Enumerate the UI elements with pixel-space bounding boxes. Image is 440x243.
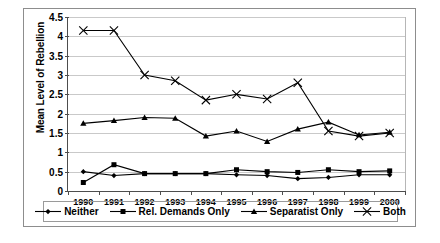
legend-item-rel-demands-only: Rel. Demands Only xyxy=(110,206,230,217)
data-point-marker xyxy=(111,162,116,167)
series-line xyxy=(83,31,389,137)
legend-item-label: Both xyxy=(383,206,406,217)
square-marker-icon xyxy=(110,206,136,217)
data-point-marker xyxy=(357,169,362,174)
legend-item-separatist-only: Separatist Only xyxy=(241,206,343,217)
x-axis-tick-mark xyxy=(313,191,314,195)
legend-item-label: Neither xyxy=(64,206,98,217)
data-point-marker xyxy=(81,180,86,185)
chart-figure: Mean Level of Rebellion 00.511.522.533.5… xyxy=(23,8,416,227)
data-point-marker xyxy=(387,168,392,173)
y-axis-tick-label: 3.5 xyxy=(49,50,63,61)
data-point-marker xyxy=(325,119,331,125)
x-axis-tick-mark xyxy=(252,191,253,195)
y-axis-tick-label: 0 xyxy=(57,186,63,197)
data-point-marker xyxy=(294,79,302,87)
legend-item-both: Both xyxy=(354,206,406,217)
y-axis-tick-label: 4 xyxy=(57,31,63,42)
data-point-marker xyxy=(265,169,270,174)
x-axis-tick-mark xyxy=(68,191,69,195)
data-point-marker xyxy=(81,169,86,174)
y-axis-tick-label: 2 xyxy=(57,108,63,119)
x-axis-tick-mark xyxy=(344,191,345,195)
x-axis-tick-mark xyxy=(374,191,375,195)
data-point-marker xyxy=(234,167,239,172)
legend-item-label: Rel. Demands Only xyxy=(139,206,230,217)
y-axis-tick-label: 1.5 xyxy=(49,128,63,139)
x-axis-tick-mark xyxy=(99,191,100,195)
y-axis-title: Mean Level of Rebellion xyxy=(35,8,46,148)
data-point-marker xyxy=(203,171,208,176)
data-point-marker xyxy=(142,171,147,176)
series-separatist-only xyxy=(80,114,393,144)
data-point-marker xyxy=(233,128,239,134)
triangle-marker-icon xyxy=(241,206,267,217)
x-axis-tick-mark xyxy=(405,191,406,195)
y-axis-tick-label: 2.5 xyxy=(49,89,63,100)
y-axis-tick-label: 3 xyxy=(57,70,63,81)
chart-legend: NeitherRel. Demands OnlySeparatist OnlyB… xyxy=(43,201,398,222)
series-both xyxy=(79,26,394,140)
x-axis-tick-mark xyxy=(221,191,222,195)
plot-area: 00.511.522.533.544.5 1990199119921993199… xyxy=(67,17,406,192)
x-axis-tick-mark xyxy=(129,191,130,195)
data-point-marker xyxy=(173,171,178,176)
data-point-marker xyxy=(234,172,239,177)
data-point-marker xyxy=(295,170,300,175)
legend-item-label: Separatist Only xyxy=(270,206,343,217)
data-point-marker xyxy=(326,167,331,172)
series-layer xyxy=(68,17,405,191)
legend-item-neither: Neither xyxy=(35,206,98,217)
y-axis-tick-label: 4.5 xyxy=(49,12,63,23)
y-axis-tick-label: 1 xyxy=(57,147,63,158)
cross-marker-icon xyxy=(354,206,380,217)
diamond-marker-icon xyxy=(35,206,61,217)
x-axis-tick-mark xyxy=(191,191,192,195)
x-axis-tick-mark xyxy=(160,191,161,195)
data-point-marker xyxy=(326,175,331,180)
data-point-marker xyxy=(295,176,300,181)
x-axis-tick-mark xyxy=(282,191,283,195)
y-axis-tick-label: 0.5 xyxy=(49,166,63,177)
data-point-marker xyxy=(111,173,116,178)
